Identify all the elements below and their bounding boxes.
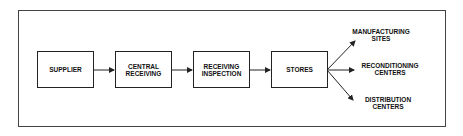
output-distribution-centers: DISTRIBUTION CENTERS [357,96,419,110]
node-label: STORES [286,66,313,73]
node-label: SUPPLIER [49,66,82,73]
node-central-receiving: CENTRAL RECEIVING [115,51,172,88]
node-label: RECEIVING INSPECTION [194,63,249,77]
node-receiving-inspection: RECEIVING INSPECTION [193,51,250,88]
node-label: CENTRAL RECEIVING [116,63,171,77]
node-stores: STORES [271,51,328,88]
output-manufacturing-sites: MANUFACTURING SITES [347,28,415,42]
node-supplier: SUPPLIER [37,51,94,88]
output-reconditioning-centers: RECONDITIONING CENTERS [354,62,426,76]
